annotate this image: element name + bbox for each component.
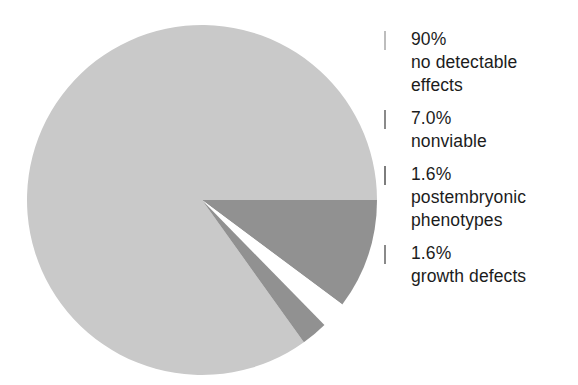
legend-item-nonviable[interactable]: 7.0% nonviable: [384, 107, 574, 153]
legend-value: 1.6%: [411, 163, 526, 186]
legend-label-line2: phenotypes: [411, 209, 526, 232]
legend-value: 1.6%: [411, 242, 526, 265]
chart-legend: 90% no detectable effects 7.0% nonviable: [384, 28, 574, 298]
legend-label-line1: no detectable: [411, 51, 517, 74]
pie-slice-group: [27, 25, 377, 375]
legend-item-postembryonic-phenotypes[interactable]: 1.6% postembryonic phenotypes: [384, 163, 574, 232]
legend-label-line1: growth defects: [411, 265, 526, 288]
legend-item-growth-defects[interactable]: 1.6% growth defects: [384, 242, 574, 288]
legend-swatch-icon: [384, 246, 398, 260]
legend-swatch-icon: [384, 111, 398, 125]
legend-item-no-detectable-effects[interactable]: 90% no detectable effects: [384, 28, 574, 97]
pie-chart-graphic: [26, 24, 378, 376]
legend-swatch-icon: [384, 32, 398, 46]
legend-value: 7.0%: [411, 107, 487, 130]
legend-label-line2: effects: [411, 74, 517, 97]
legend-swatch-icon: [384, 167, 398, 181]
legend-value: 90%: [411, 28, 517, 51]
pie-svg: [26, 24, 378, 376]
legend-label-line1: nonviable: [411, 130, 487, 153]
pie-chart-figure: 90% no detectable effects 7.0% nonviable: [0, 0, 578, 385]
legend-label-line1: postembryonic: [411, 186, 526, 209]
